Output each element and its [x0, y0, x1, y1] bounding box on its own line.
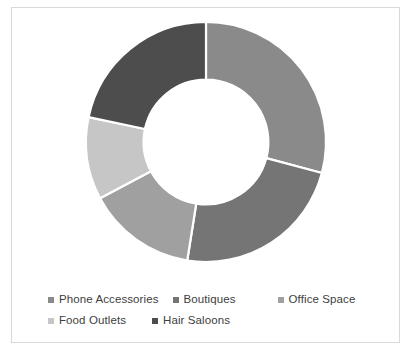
donut-chart	[12, 8, 401, 280]
legend-swatch-hair-saloons-icon	[152, 318, 158, 324]
chart-plot-area	[12, 8, 401, 280]
legend-label-food-outlets: Food Outlets	[59, 315, 126, 327]
legend-row-1: Phone Accessories Boutiques Office Space	[12, 289, 401, 310]
legend-label-office-space: Office Space	[289, 294, 356, 306]
legend-label-boutiques: Boutiques	[184, 294, 236, 306]
donut-slice-hair-saloons[interactable]	[89, 22, 206, 129]
donut-slice-phone-accessories[interactable]	[206, 22, 326, 173]
donut-slice-group	[86, 22, 326, 262]
legend-swatch-food-outlets-icon	[48, 318, 54, 324]
legend-swatch-boutiques-icon	[173, 297, 179, 303]
legend-item-phone-accessories[interactable]: Phone Accessories	[48, 294, 159, 306]
legend-swatch-phone-accessories-icon	[48, 297, 54, 303]
legend-item-hair-saloons[interactable]: Hair Saloons	[152, 315, 230, 327]
legend-label-phone-accessories: Phone Accessories	[59, 294, 159, 306]
legend-item-food-outlets[interactable]: Food Outlets	[48, 315, 126, 327]
legend-row-2: Food Outlets Hair Saloons	[12, 310, 401, 331]
chart-legend: Phone Accessories Boutiques Office Space…	[12, 289, 401, 331]
legend-label-hair-saloons: Hair Saloons	[163, 315, 230, 327]
donut-slice-boutiques[interactable]	[187, 158, 322, 262]
legend-swatch-office-space-icon	[278, 297, 284, 303]
legend-item-office-space[interactable]: Office Space	[278, 294, 356, 306]
chart-card: Phone Accessories Boutiques Office Space…	[11, 7, 400, 343]
legend-item-boutiques[interactable]: Boutiques	[173, 294, 236, 306]
